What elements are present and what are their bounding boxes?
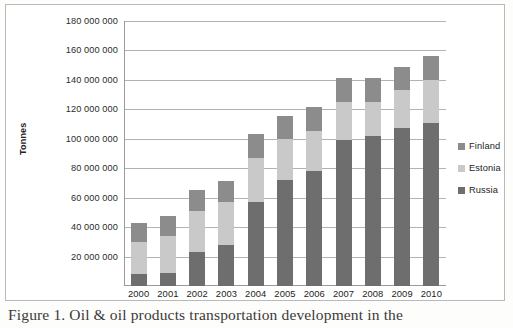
bar-segment-finland[interactable] <box>394 67 410 91</box>
bar-segment-estonia[interactable] <box>189 211 205 252</box>
y-axis-tick-label: 60 000 000 <box>71 193 118 203</box>
bar-segment-russia[interactable] <box>160 273 176 286</box>
chart-legend: FinlandEstoniaRussia <box>458 135 513 201</box>
bar-segment-russia[interactable] <box>277 180 293 286</box>
legend-item-label: Finland <box>469 141 500 151</box>
legend-item-finland[interactable]: Finland <box>458 135 513 157</box>
legend-swatch-icon <box>458 143 465 150</box>
y-axis-tick-label: 140 000 000 <box>66 75 118 85</box>
bar-segment-estonia[interactable] <box>365 102 381 136</box>
bar-stack[interactable] <box>365 21 381 286</box>
bar-segment-estonia[interactable] <box>248 158 264 202</box>
bars-layer <box>124 21 446 286</box>
bar-segment-estonia[interactable] <box>218 202 234 245</box>
bar-segment-estonia[interactable] <box>423 80 439 123</box>
bar-segment-russia[interactable] <box>394 128 410 286</box>
bar-segment-finland[interactable] <box>365 78 381 102</box>
bar-segment-russia[interactable] <box>189 252 205 286</box>
bar-segment-estonia[interactable] <box>131 242 147 274</box>
bar-segment-russia[interactable] <box>131 274 147 286</box>
legend-swatch-icon <box>458 187 465 194</box>
y-axis-tick-label: 120 000 000 <box>66 104 118 114</box>
x-axis-tick-label: 2005 <box>274 288 295 299</box>
bar-segment-finland[interactable] <box>160 216 176 236</box>
bar-segment-finland[interactable] <box>336 78 352 102</box>
bar-segment-estonia[interactable] <box>336 102 352 140</box>
bar-segment-russia[interactable] <box>306 171 322 286</box>
bar-stack[interactable] <box>277 21 293 286</box>
x-axis-tick-label: 2003 <box>216 288 237 299</box>
bar-segment-finland[interactable] <box>306 107 322 131</box>
bar-segment-estonia[interactable] <box>306 131 322 171</box>
figure-caption: Figure 1. Oil & oil products transportat… <box>8 306 508 324</box>
bar-segment-estonia[interactable] <box>277 139 293 180</box>
bar-stack[interactable] <box>423 21 439 286</box>
x-axis-tick-label: 2002 <box>187 288 208 299</box>
y-axis-tick-label: 40 000 000 <box>71 222 118 232</box>
bar-stack[interactable] <box>218 21 234 286</box>
x-axis-tick-label: 2009 <box>391 288 412 299</box>
y-axis-tick-label: 100 000 000 <box>66 134 118 144</box>
legend-item-russia[interactable]: Russia <box>458 179 513 201</box>
bar-stack[interactable] <box>189 21 205 286</box>
chart-area: Tonnes 20 000 00040 000 00060 000 00080 … <box>6 5 506 302</box>
bar-segment-finland[interactable] <box>189 190 205 211</box>
x-axis-tick-label: 2010 <box>421 288 442 299</box>
y-axis-tick-label: 180 000 000 <box>66 16 118 26</box>
x-axis-tick-label: 2007 <box>333 288 354 299</box>
bar-segment-finland[interactable] <box>131 223 147 241</box>
legend-item-label: Estonia <box>469 163 501 173</box>
bar-segment-russia[interactable] <box>218 245 234 286</box>
bar-segment-estonia[interactable] <box>160 236 176 273</box>
x-axis-tick-label: 2004 <box>245 288 266 299</box>
bar-stack[interactable] <box>131 21 147 286</box>
bar-segment-estonia[interactable] <box>394 90 410 128</box>
x-axis-tick-label: 2006 <box>304 288 325 299</box>
x-axis-tick-label: 2000 <box>128 288 149 299</box>
y-axis-tick-labels: 20 000 00040 000 00060 000 00080 000 000… <box>6 21 118 286</box>
bar-segment-finland[interactable] <box>423 56 439 80</box>
y-axis-tick-label: 80 000 000 <box>71 163 118 173</box>
figure-frame: Tonnes 20 000 00040 000 00060 000 00080 … <box>5 4 505 301</box>
x-axis-tick-label: 2008 <box>362 288 383 299</box>
legend-item-label: Russia <box>469 185 498 195</box>
y-axis-tick-label: 160 000 000 <box>66 45 118 55</box>
bar-stack[interactable] <box>248 21 264 286</box>
bar-stack[interactable] <box>336 21 352 286</box>
x-axis-tick-label: 2001 <box>157 288 178 299</box>
bar-segment-russia[interactable] <box>336 140 352 286</box>
legend-swatch-icon <box>458 165 465 172</box>
bar-stack[interactable] <box>394 21 410 286</box>
bar-segment-russia[interactable] <box>248 202 264 286</box>
x-axis-tick-labels: 2000200120022003200420052006200720082009… <box>124 288 446 304</box>
bar-segment-finland[interactable] <box>218 181 234 202</box>
legend-item-estonia[interactable]: Estonia <box>458 157 513 179</box>
bar-segment-finland[interactable] <box>277 116 293 139</box>
y-axis-tick-label: 20 000 000 <box>71 252 118 262</box>
bar-stack[interactable] <box>306 21 322 286</box>
bar-segment-russia[interactable] <box>423 123 439 286</box>
bar-stack[interactable] <box>160 21 176 286</box>
bar-segment-finland[interactable] <box>248 134 264 158</box>
bar-segment-russia[interactable] <box>365 136 381 286</box>
